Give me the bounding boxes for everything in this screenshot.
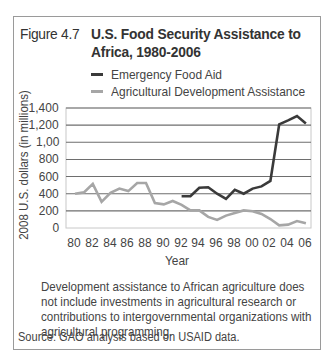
series-emergency-food-aid: [182, 116, 306, 199]
figure-source: Source: GAO analysis based on USAID data…: [18, 330, 240, 344]
x-axis-label: Year: [165, 253, 189, 268]
series-agricultural-development: [75, 183, 306, 225]
